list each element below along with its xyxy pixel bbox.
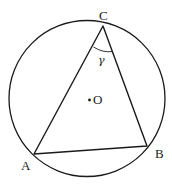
vertex-label-a: A — [21, 158, 31, 173]
vertex-label-b: B — [155, 146, 164, 161]
angle-gamma-arc — [94, 47, 113, 52]
center-point-o — [88, 99, 91, 102]
circumcircle — [9, 21, 165, 177]
triangle-abc — [34, 26, 147, 154]
vertex-label-c: C — [99, 8, 108, 23]
center-label-o: O — [93, 92, 102, 107]
angle-label-gamma: γ — [98, 54, 105, 67]
diagram-canvas: C A B O γ — [0, 0, 172, 186]
